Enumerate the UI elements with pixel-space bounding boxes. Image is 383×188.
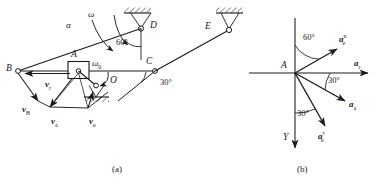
alpha-label: α — [66, 21, 71, 30]
point-label-o: O — [110, 76, 117, 86]
figure-canvas — [0, 0, 383, 188]
omega0-arc — [100, 72, 108, 86]
accel-label-aa: aa — [349, 100, 356, 111]
ground-support-d — [124, 8, 151, 29]
ground-support-e — [216, 8, 243, 30]
accel-angle-30-upper: 30° — [328, 76, 340, 85]
origin-label-a: A — [281, 61, 287, 71]
angle-label-d: 60° — [116, 38, 128, 47]
velocity-label-vb: vB — [22, 105, 30, 116]
omega-label: ω — [88, 10, 94, 19]
omega0-label: ω0 — [92, 59, 101, 70]
link-ce — [155, 30, 229, 71]
angle-arc-60 — [295, 45, 319, 59]
accel-label-aetau: aτe — [318, 130, 324, 143]
axis-y-label: Y — [283, 133, 288, 143]
angle-label-c: 30° — [160, 78, 172, 87]
accel-angle-30-lower: 30° — [297, 109, 309, 118]
velocity-label-ve: ve — [89, 117, 96, 128]
velocity-vector-vb — [18, 73, 38, 101]
velocity-label-vr: vr — [45, 80, 51, 91]
point-label-b: B — [6, 64, 12, 74]
point-label-d: D — [150, 21, 157, 31]
velocity-label-va: va — [51, 117, 58, 128]
alpha-arc — [92, 20, 113, 51]
point-label-e: E — [205, 22, 211, 32]
point-label-c: C — [146, 57, 152, 67]
accel-label-ar: ar — [354, 59, 361, 70]
mechanics-figure: B A C D E O α ω ω0 60° 30° vr vB va ve A… — [0, 0, 383, 188]
caption-a: (a) — [112, 165, 122, 174]
accel-label-aen: ane — [339, 33, 345, 46]
caption-b: (b) — [297, 165, 308, 174]
angle-arc-d — [127, 42, 142, 47]
accel-angle-60: 60° — [303, 33, 315, 42]
guide-line-c — [118, 71, 155, 101]
point-label-a: A — [71, 50, 77, 60]
